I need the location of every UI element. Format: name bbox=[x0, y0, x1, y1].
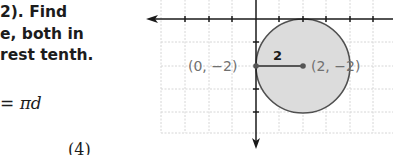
coordinate-graph: 2 (0, −2) (2, −2) bbox=[0, 0, 393, 155]
point-a-dot bbox=[253, 63, 259, 69]
point-a-label: (0, −2) bbox=[188, 58, 237, 74]
x-axis bbox=[152, 16, 393, 22]
center-point-label: (2, −2) bbox=[311, 58, 360, 74]
radius-label: 2 bbox=[273, 48, 282, 63]
center-point-dot bbox=[300, 63, 306, 69]
